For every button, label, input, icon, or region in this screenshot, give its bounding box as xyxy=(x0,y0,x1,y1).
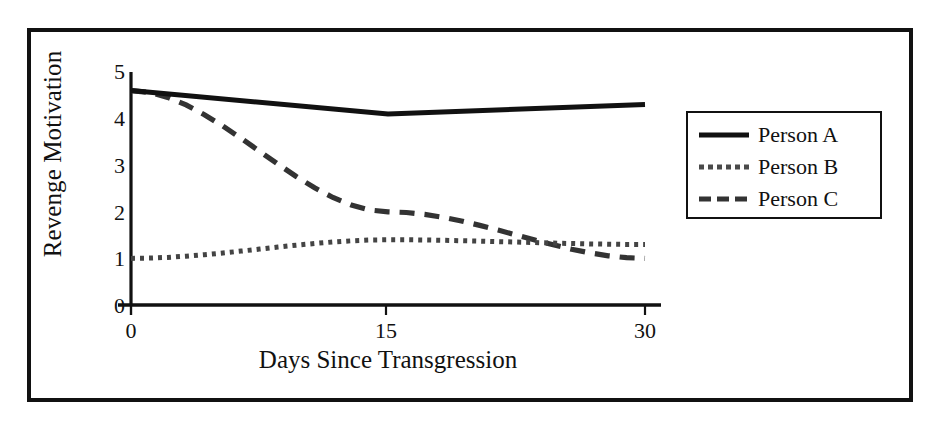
y-tick-label-5: 5 xyxy=(101,61,125,83)
series-line-person-b xyxy=(131,240,645,259)
legend-item-person-c[interactable]: Person C xyxy=(698,185,876,213)
legend: Person A Person B Person C xyxy=(686,111,882,219)
y-tick-label-2: 2 xyxy=(101,202,125,224)
y-tick-label-4: 4 xyxy=(101,108,125,130)
y-tick-label-0: 0 xyxy=(101,295,125,317)
x-tick-label-0: 0 xyxy=(101,320,161,342)
y-axis-title: Revenge Motivation xyxy=(39,39,67,269)
legend-item-person-b[interactable]: Person B xyxy=(698,153,876,181)
legend-swatch-dashed-line-icon xyxy=(698,192,750,206)
legend-swatch-dotted-line-icon xyxy=(698,160,750,174)
legend-label-person-b: Person B xyxy=(758,156,838,178)
legend-item-person-a[interactable]: Person A xyxy=(698,121,876,149)
figure-root: 5 4 3 2 1 0 0 15 30 Revenge Motivation D… xyxy=(0,0,936,426)
legend-label-person-c: Person C xyxy=(758,188,838,210)
legend-label-person-a: Person A xyxy=(758,124,838,146)
x-axis-title: Days Since Transgression xyxy=(131,346,645,374)
y-tick-label-1: 1 xyxy=(101,248,125,270)
legend-swatch-solid-line-icon xyxy=(698,128,750,142)
y-tick-label-3: 3 xyxy=(101,155,125,177)
x-tick-label-15: 15 xyxy=(356,320,416,342)
series-line-person-a xyxy=(131,91,645,114)
x-tick-label-30: 30 xyxy=(615,320,675,342)
